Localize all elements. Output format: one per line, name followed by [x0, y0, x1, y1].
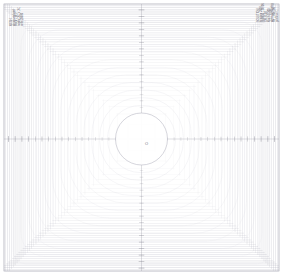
mesh-plot-figure: MESH structured grid block 1 of 1 nodes …: [0, 0, 283, 275]
center-circle-hole: [116, 113, 168, 165]
mesh-plot-canvas: [0, 0, 283, 275]
